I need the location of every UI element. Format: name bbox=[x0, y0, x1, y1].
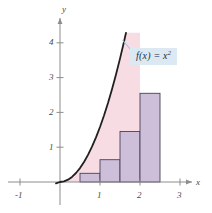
rect-bar-3 bbox=[120, 132, 140, 183]
plot-canvas bbox=[0, 0, 212, 213]
y-axis-label: y bbox=[62, 5, 66, 14]
x-tick-label-neg1: -1 bbox=[15, 191, 23, 200]
function-label-exponent: 2 bbox=[168, 49, 171, 56]
y-tick-label-3: 3 bbox=[49, 73, 54, 82]
y-tick-label-1: 1 bbox=[49, 143, 54, 152]
rect-bar-4 bbox=[140, 93, 160, 182]
x-tick-label-1: 1 bbox=[97, 191, 102, 200]
y-tick-label-2: 2 bbox=[49, 108, 54, 117]
x-axis-label: x bbox=[196, 178, 200, 187]
function-label-text: f(x) = x bbox=[136, 50, 168, 61]
x-tick-label-2: 2 bbox=[137, 191, 142, 200]
x-axis-arrow bbox=[186, 180, 192, 185]
function-label-box: f(x) = x2 bbox=[130, 48, 177, 65]
figure-container: -1 1 2 3 1 2 3 4 x y f(x) = x2 bbox=[0, 0, 212, 213]
rect-bar-2 bbox=[100, 160, 120, 182]
x-tick-label-3: 3 bbox=[177, 191, 182, 200]
rect-bar-1 bbox=[80, 173, 100, 182]
y-tick-label-4: 4 bbox=[49, 38, 54, 47]
